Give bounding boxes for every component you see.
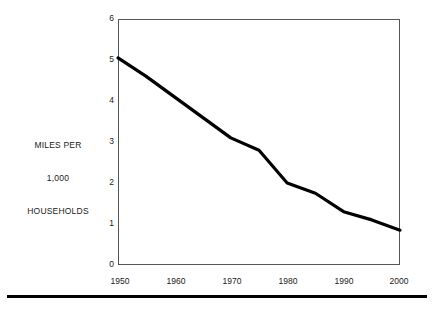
x-tick-1990: 1990: [324, 276, 364, 286]
x-axis-tick-labels: 1950 1960 1970 1980 1990 2000: [0, 0, 434, 311]
bottom-horizontal-rule: [7, 295, 427, 298]
x-tick-1970: 1970: [212, 276, 252, 286]
chart-figure: MILES PER 1,000 HOUSEHOLDS 6 5 4 3 2 1 0…: [0, 0, 434, 311]
x-tick-1950: 1950: [100, 276, 140, 286]
x-tick-2000: 2000: [379, 276, 419, 286]
x-tick-1960: 1960: [156, 276, 196, 286]
x-tick-1980: 1980: [268, 276, 308, 286]
